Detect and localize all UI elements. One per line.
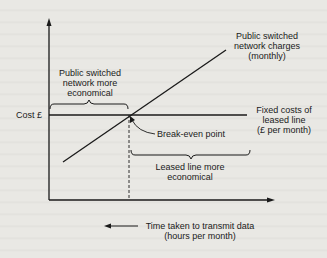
psn-region-label-line3: economical [50,88,130,98]
x-label-arrow-icon [104,224,111,229]
x-axis-label-line1: Time taken to transmit data [140,221,260,231]
leased-region-label-line1: Leased line more [150,162,230,172]
break-even-pointer [132,120,155,134]
psn-region-brace [50,100,128,109]
fixed-line-label-line2: leased line [246,115,322,125]
leased-region-brace [131,150,250,159]
x-axis-label-line2: (hours per month) [140,231,260,241]
fixed-line-label: Fixed costs of leased line (£ per month) [246,105,322,135]
psn-charges-line [63,50,226,162]
y-axis-arrow-icon [47,18,52,26]
x-axis-arrow-icon [267,198,275,203]
fixed-line-label-line1: Fixed costs of [246,105,322,115]
psn-region-label-line2: network more [50,78,130,88]
psn-line-label-line1: Public switched [222,31,312,41]
psn-region-label: Public switched network more economical [50,68,130,98]
break-even-label: Break-even point [157,129,225,139]
break-even-arrow-icon [130,116,135,123]
psn-line-label: Public switched network charges (monthly… [222,31,312,61]
fixed-line-label-line3: (£ per month) [246,125,322,135]
x-axis-label: Time taken to transmit data (hours per m… [140,221,260,241]
psn-region-label-line1: Public switched [50,68,130,78]
y-axis-label: Cost £ [16,110,42,120]
psn-line-label-line3: (monthly) [222,51,312,61]
psn-line-label-line2: network charges [222,41,312,51]
leased-region-label-line2: economical [150,172,230,182]
leased-region-label: Leased line more economical [150,162,230,182]
